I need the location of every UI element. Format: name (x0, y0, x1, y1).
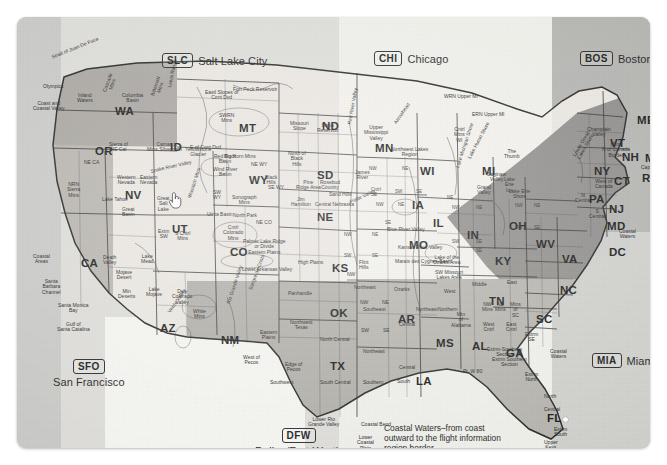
zone-label-1: NE (402, 166, 408, 171)
fir-callout-mia[interactable]: MIA Miami (592, 353, 650, 368)
region-label-20: NE WY (251, 162, 267, 167)
fir-callout-slc[interactable]: SLC Salt Lake City (162, 53, 267, 68)
state-abbr-38: NY (594, 165, 611, 177)
state-abbr-24: MS (436, 337, 454, 349)
state-abbr-27: OH (509, 220, 527, 232)
zone-label-6: NE (398, 202, 404, 207)
state-abbr-20: AR (398, 313, 415, 325)
state-abbr-11: ND (322, 120, 339, 132)
state-abbr-37: PA (589, 193, 605, 205)
region-label-57: Edge ofPecos (285, 362, 302, 373)
region-label-31: GreatBasin (122, 207, 135, 218)
state-abbr-46: MD (607, 220, 626, 232)
state-abbr-8: CO (230, 246, 248, 258)
state-abbr-43: CT (614, 175, 630, 187)
region-label-104: Ozarks (394, 287, 410, 292)
fir-code-chi: CHI (374, 51, 402, 66)
region-label-72: RosebudCountry (320, 180, 340, 191)
region-label-98: Blue River Valley (387, 227, 425, 232)
region-label-107: Southeast (363, 307, 386, 312)
region-label-41: CoastalAreas (33, 254, 50, 265)
state-abbr-33: SC (536, 313, 553, 325)
zone-label-14: SW (344, 253, 352, 258)
fir-callout-dfw[interactable]: DFW Dallas/Fort Worth (255, 425, 342, 448)
zone-label-5: NW (376, 202, 384, 207)
fir-name-bos: Boston (618, 53, 650, 65)
region-label-128: MtnsofSC (510, 302, 521, 318)
fir-name-chi: Chicago (407, 53, 448, 65)
state-abbr-34: NC (560, 284, 577, 296)
state-abbr-21: LA (416, 375, 432, 387)
state-abbr-35: VA (562, 253, 578, 265)
region-label-26: Uinta Basin (207, 212, 233, 217)
region-label-106: Northeast (416, 307, 438, 312)
fir-code-mia: MIA (592, 353, 622, 368)
region-label-27: North Park (233, 213, 257, 218)
state-abbr-47: DC (609, 246, 626, 258)
fir-callout-sfo[interactable]: SFO San Francisco (53, 356, 125, 388)
state-abbr-1: OR (95, 145, 113, 157)
zone-label-3: SW (395, 189, 403, 194)
region-label-70: JamesRiver (355, 170, 370, 181)
region-label-110: Central (399, 365, 415, 370)
state-abbr-4: ID (170, 141, 182, 153)
region-label-126: CoastalWaters (550, 349, 567, 360)
zone-label-17: NE (534, 203, 540, 208)
region-label-49: LakeMojave (146, 287, 162, 298)
region-label-80: WRN Upper MI (444, 94, 478, 99)
region-label-10: Fort Peck Reservoir (233, 87, 277, 92)
zone-label-19: SE (534, 225, 540, 230)
fir-callout-bos[interactable]: BOS Boston (580, 51, 650, 66)
region-label-135: NW (360, 300, 368, 305)
region-label-45: DeathValley (103, 255, 116, 266)
state-abbr-12: SD (317, 169, 334, 181)
region-label-1: Olympics (43, 84, 64, 89)
region-label-17: Wind RiverBasin (213, 167, 237, 178)
region-label-36: CntrlColoradoMtns (223, 225, 243, 241)
region-label-55: EasternPlains (260, 330, 277, 341)
fir-code-bos: BOS (580, 51, 613, 66)
map-sheet[interactable]: Strait of Juan De FucaOlympicsCoast andC… (17, 17, 650, 448)
region-label-37: NE CO (256, 220, 272, 225)
state-abbr-9: AZ (160, 322, 176, 334)
state-abbr-32: FL (547, 412, 562, 424)
state-abbr-41: ME (637, 114, 650, 126)
state-abbr-44: RI (642, 172, 650, 184)
region-label-133: ExtrmSE (525, 332, 538, 343)
region-label-74: JimHamilton (291, 197, 311, 208)
zone-label-4: SE (416, 189, 422, 194)
state-abbr-6: WY (249, 174, 268, 186)
region-label-65: LowerCoastalPlain (357, 435, 374, 448)
state-abbr-16: TX (330, 360, 345, 372)
region-label-116: West (444, 289, 455, 294)
region-label-40: High Plains (298, 260, 323, 265)
state-abbr-39: VT (610, 137, 625, 149)
state-abbr-23: IL (433, 217, 444, 229)
region-label-101: Lake of theOzarks Area (433, 255, 461, 266)
region-label-96: Cape Cod (641, 165, 650, 170)
region-label-38: Palmer Lake Ridgeor DivideEastern Plains (243, 239, 286, 255)
region-label-51: WhiteMtns (193, 309, 206, 320)
region-label-87: GrandValley (477, 185, 491, 196)
region-label-58: Panhandle (288, 291, 312, 296)
zone-label-7: SE (385, 220, 391, 225)
region-label-56: West ofPecos (243, 355, 260, 366)
region-label-81: ERN Upper MI (472, 112, 505, 117)
region-label-21: SE WY (268, 185, 284, 190)
fir-callout-chi[interactable]: CHI Chicago (374, 51, 448, 66)
state-abbr-30: AL (472, 340, 488, 352)
region-label-114: Middle (472, 282, 487, 287)
region-label-28: WesternNevada (117, 175, 136, 186)
zone-label-0: NW (369, 166, 377, 171)
region-label-66: MissouriSlope (290, 121, 309, 132)
region-label-62: Southwest (270, 380, 293, 385)
region-label-22: SWWY (213, 190, 221, 201)
region-label-32: NRNSierraMtns (67, 182, 80, 198)
region-label-39: Lower Arkansas Valley (242, 267, 292, 272)
zone-label-16: NW (515, 203, 523, 208)
region-label-136: NE (382, 300, 389, 305)
fir-name-sfo: San Francisco (53, 376, 125, 388)
region-label-123: UpperKeys (544, 440, 558, 448)
region-label-102: SW MissouriLakes Area (435, 270, 463, 281)
region-label-71: PineRidge Area (296, 180, 321, 191)
